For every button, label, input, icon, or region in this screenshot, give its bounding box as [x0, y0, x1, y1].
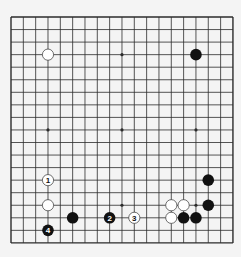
white-stone — [166, 200, 177, 211]
black-stone: 4 — [42, 225, 54, 237]
white-stone-disc — [178, 200, 189, 211]
black-stone-disc — [190, 212, 202, 224]
black-stone — [190, 212, 202, 224]
white-stone — [166, 212, 177, 223]
black-stone — [202, 174, 214, 186]
white-stone: 3 — [129, 212, 140, 223]
star-point — [46, 128, 49, 131]
star-point — [120, 204, 123, 207]
white-stone-disc — [42, 200, 53, 211]
white-stone-disc — [42, 49, 53, 60]
black-stone-disc — [190, 49, 202, 61]
black-stone — [67, 212, 79, 224]
move-number-label: 1 — [46, 176, 51, 185]
go-board[interactable]: 1234 — [0, 0, 241, 257]
white-stone — [42, 200, 53, 211]
star-point — [120, 53, 123, 56]
black-stone — [190, 49, 202, 61]
white-stone — [42, 49, 53, 60]
white-stone — [178, 200, 189, 211]
black-stone-disc — [67, 212, 79, 224]
white-stone-disc — [166, 200, 177, 211]
move-number-label: 3 — [132, 214, 137, 223]
star-point — [194, 204, 197, 207]
black-stone-disc — [202, 174, 214, 186]
black-stone — [202, 199, 214, 211]
move-number-label: 2 — [107, 214, 112, 223]
black-stone-disc — [178, 212, 190, 224]
black-stone — [178, 212, 190, 224]
black-stone-disc — [202, 199, 214, 211]
star-point — [194, 128, 197, 131]
black-stone: 2 — [104, 212, 116, 224]
white-stone: 1 — [42, 175, 53, 186]
white-stone-disc — [166, 212, 177, 223]
star-point — [120, 128, 123, 131]
move-number-label: 4 — [46, 226, 51, 235]
